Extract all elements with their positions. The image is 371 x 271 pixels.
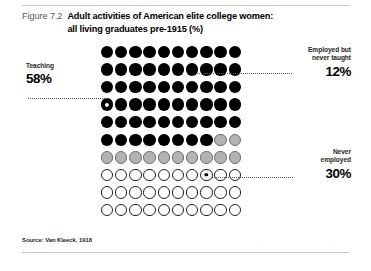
callout-teaching: Teaching 58% [26,62,54,86]
dot-teaching [129,134,141,146]
dot-employed [101,151,113,163]
dot-teaching [214,116,226,128]
dot-teaching [115,46,127,58]
callout-teaching-value: 58% [26,71,54,86]
dot-employed [115,151,127,163]
dot-never [200,204,212,216]
dot-teaching [143,134,155,146]
callout-employed-label-line-1: Employed but [308,46,351,54]
dot-never [172,204,184,216]
callout-never-employed-label-line-1: Never [321,148,351,156]
dot-teaching [129,116,141,128]
dot-never [129,186,141,198]
page-title: Adult activities of American elite colle… [67,10,273,35]
callout-never-employed-value: 30% [321,166,351,181]
source-note: Source: Van Kleeck, 1918 [22,236,92,244]
dot-employed [172,151,184,163]
dot-employed [143,151,155,163]
dot-teaching [158,98,170,110]
dot-never [186,169,198,181]
dot-teaching [158,46,170,58]
dot-teaching [101,134,113,146]
dot-never [229,204,241,216]
dot-never [229,186,241,198]
dot-never [200,186,212,198]
dot-teaching [172,63,184,75]
dot-teaching [115,116,127,128]
dot-teaching [200,81,212,93]
dot-teaching [172,134,184,146]
figure-container: Figure 7.2 Adult activities of American … [0,0,371,271]
callout-never-employed-label-line-2: employed [321,156,351,164]
dot-teaching [115,134,127,146]
dot-teaching [129,46,141,58]
dot-teaching [143,46,155,58]
dot-never [129,169,141,181]
dot-never [186,204,198,216]
dot-never [101,169,113,181]
leader-line-never [212,177,293,178]
dot-teaching [115,98,127,110]
chart-plot-area: Teaching 58% Employed but never taught 1… [0,40,371,236]
dot-teaching [101,116,113,128]
dot-teaching [200,116,212,128]
page-title-line-2: all living graduates pre-1915 (%) [67,23,273,36]
dot-teaching [143,81,155,93]
top-divider [22,5,349,6]
dot-teaching [101,46,113,58]
dot-employed [229,134,241,146]
dot-teaching [158,63,170,75]
dot-teaching [186,116,198,128]
dot-employed [200,151,212,163]
dot-employed [186,151,198,163]
folio-mark-left: · [260,244,262,250]
dot-teaching [172,98,184,110]
dot-never [158,186,170,198]
dot-never [115,186,127,198]
dot-never [214,186,226,198]
dot-teaching [229,98,241,110]
dot-employed [129,151,141,163]
callout-teaching-label: Teaching [26,62,54,70]
dot-employed [214,151,226,163]
callout-employed: Employed but never taught 12% [308,46,351,79]
dot-teaching [115,81,127,93]
dot-never [158,169,170,181]
dot-employed [158,151,170,163]
figure-title-block: Figure 7.2 Adult activities of American … [22,10,352,35]
dot-teaching [186,81,198,93]
dot-never [214,204,226,216]
dot-teaching [101,81,113,93]
dot-employed [229,151,241,163]
callout-employed-value: 12% [308,64,351,79]
dot-teaching [186,46,198,58]
leader-endpoint-marker [191,68,194,71]
leader-line-employed [196,73,292,74]
dot-never [172,186,184,198]
dot-teaching [115,63,127,75]
dot-teaching [200,134,212,146]
figure-number: Figure 7.2 [22,10,62,23]
dot-never [101,204,113,216]
dot-teaching [214,46,226,58]
callout-never-employed: Never employed 30% [321,148,351,181]
dot-never [200,169,212,181]
dot-never [115,204,127,216]
dot-never [143,186,155,198]
folio-mark-right: · [330,244,332,250]
dot-teaching [186,98,198,110]
dot-teaching [200,46,212,58]
dot-never [143,169,155,181]
dot-teaching [186,134,198,146]
dot-teaching [229,116,241,128]
dot-never [214,169,226,181]
dot-never [229,169,241,181]
dot-teaching [158,81,170,93]
dot-teaching [172,116,184,128]
dot-teaching [229,46,241,58]
dot-teaching [214,81,226,93]
leader-endpoint-marker [105,102,109,106]
dot-teaching [129,81,141,93]
dot-never [129,204,141,216]
callout-employed-label-line-2: never taught [308,54,351,62]
